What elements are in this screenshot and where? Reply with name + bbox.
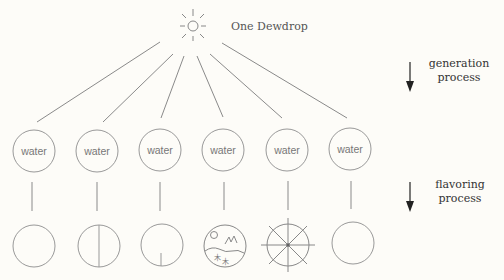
generation-label-line1: generation bbox=[429, 57, 490, 70]
diagram-title: One Dewdrop bbox=[231, 20, 308, 33]
water-label: water bbox=[209, 144, 236, 156]
generation-label-line2: process bbox=[438, 71, 481, 84]
water-label: water bbox=[83, 145, 110, 157]
water-node-5: water bbox=[266, 129, 308, 171]
flavoring-label-line2: process bbox=[439, 192, 482, 205]
generation-lines bbox=[37, 42, 347, 122]
landscape-circle-icon: 木 木 bbox=[204, 225, 246, 267]
water-label: water bbox=[20, 145, 47, 157]
water-label: water bbox=[146, 144, 173, 156]
star-circle-icon bbox=[261, 218, 315, 272]
water-node-4: water bbox=[202, 129, 244, 171]
svg-text:木: 木 bbox=[222, 257, 229, 266]
generation-arrow-icon bbox=[406, 62, 414, 92]
svg-text:木: 木 bbox=[214, 253, 221, 262]
flavoring-arrow-icon bbox=[406, 182, 414, 212]
empty-circle-icon bbox=[13, 225, 55, 267]
circle-short-stem-icon bbox=[141, 224, 183, 266]
water-label: water bbox=[336, 143, 363, 155]
flavoring-connectors bbox=[32, 181, 351, 211]
empty-circle-icon bbox=[332, 222, 374, 264]
flavoring-label-line1: flavoring bbox=[435, 178, 485, 191]
circle-vertical-divider-icon bbox=[78, 225, 120, 267]
dewdrop-diagram: One Dewdrop water water water water wate… bbox=[0, 0, 504, 280]
water-node-6: water bbox=[329, 128, 371, 170]
sun-icon bbox=[180, 9, 206, 41]
water-node-1: water bbox=[13, 130, 55, 172]
water-node-3: water bbox=[139, 129, 181, 171]
water-node-2: water bbox=[76, 130, 118, 172]
water-label: water bbox=[273, 144, 300, 156]
